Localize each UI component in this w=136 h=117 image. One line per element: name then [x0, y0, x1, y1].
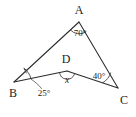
angle-label-c: 40°: [93, 72, 106, 81]
angle-label-b: 25°: [38, 89, 51, 98]
segment-bd: [14, 71, 67, 82]
angle-label-a: 70°: [74, 29, 87, 38]
angle-label-d: x: [65, 76, 69, 86]
geometry-figure: A B C D 70° 25° x 40°: [0, 0, 136, 117]
vertex-label-a: A: [75, 4, 84, 16]
vertex-label-d: D: [62, 53, 71, 65]
vertex-label-c: C: [120, 94, 128, 106]
vertex-label-b: B: [9, 87, 17, 99]
